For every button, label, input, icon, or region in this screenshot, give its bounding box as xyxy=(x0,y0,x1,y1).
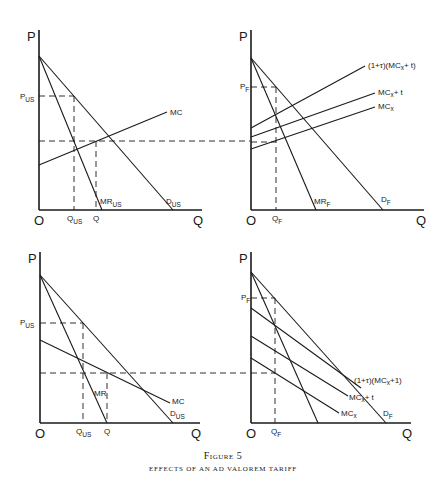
qf-label: QF xyxy=(271,427,281,438)
mcx-plus-t-label: MCx+ t xyxy=(378,88,404,98)
tariff-cost-label: (1+τ)(MCx+1) xyxy=(354,376,402,386)
mcx-label: MCx xyxy=(341,409,357,419)
panel-bottom-right: P O Q PF (1+τ)(MCx+1) MCx+ t MCx DF QF xyxy=(239,251,412,441)
marginal-cost-curve xyxy=(39,112,167,165)
origin-label: O xyxy=(246,213,256,228)
y-axis-label: P xyxy=(239,251,248,266)
qus-label: QUS xyxy=(76,427,92,438)
marginal-revenue-curve xyxy=(39,56,102,210)
panel-top-right: P O Q PF (1+τ)(MCx+ t) MCx+ t MCx MRF DF… xyxy=(239,29,426,228)
y-axis-label: P xyxy=(239,29,248,44)
marginal-revenue-curve xyxy=(251,272,318,423)
demand-curve xyxy=(39,56,173,210)
price-label: PF xyxy=(241,293,250,304)
q-label: Q xyxy=(93,214,99,223)
tariff-cost-label: (1+τ)(MCx+ t) xyxy=(368,61,416,71)
mcx-curve xyxy=(251,107,375,149)
mcx-plus-t-curve xyxy=(251,93,375,137)
mcx-plus-t-curve xyxy=(251,336,348,396)
origin-label: O xyxy=(246,426,256,441)
figure-title: Figure 5 xyxy=(0,450,446,461)
qf-label: QF xyxy=(272,214,282,225)
price-label: PUS xyxy=(20,318,35,329)
origin-label: O xyxy=(35,426,45,441)
demand-curve xyxy=(40,275,173,423)
mc-label: MC xyxy=(170,108,183,117)
x-axis-label: Q xyxy=(193,213,203,228)
y-axis-label: P xyxy=(28,251,37,266)
tariff-cost-curve xyxy=(251,308,361,388)
x-axis-label: Q xyxy=(402,426,412,441)
mcx-curve xyxy=(251,358,339,413)
mr-label: MRF xyxy=(314,197,330,208)
demand-label: DUS xyxy=(170,409,185,420)
mcx-label: MCx xyxy=(378,102,394,112)
demand-label: DF xyxy=(381,195,391,206)
origin-label: O xyxy=(34,213,44,228)
panel-top-left: P O Q PUS MC MRUS DUS QUS Q xyxy=(20,29,250,228)
panel-bottom-left: P O Q PUS MC MR DUS QUS Q xyxy=(20,251,250,441)
price-label: PUS xyxy=(20,92,35,103)
mc-label: MC xyxy=(172,397,185,406)
x-axis-label: Q xyxy=(191,426,201,441)
x-axis-label: Q xyxy=(416,213,426,228)
mr-label: MRUS xyxy=(100,197,122,208)
mcx-plus-t-label: MCx+ t xyxy=(349,393,375,403)
q-label: Q xyxy=(104,427,110,436)
tariff-diagram: P O Q PUS MC MRUS DUS QUS Q P O Q PF (1+… xyxy=(0,0,446,483)
demand-label: DUS xyxy=(166,197,181,208)
mr-label: MR xyxy=(94,389,107,398)
y-axis-label: P xyxy=(27,29,36,44)
demand-label: DF xyxy=(383,409,393,420)
marginal-revenue-curve xyxy=(40,275,107,423)
price-label: PF xyxy=(240,82,249,93)
figure-subtitle: EFFECTS OF AN AD VALOREM TARIFF xyxy=(0,465,446,473)
demand-curve xyxy=(251,58,383,210)
qus-label: QUS xyxy=(67,214,83,225)
